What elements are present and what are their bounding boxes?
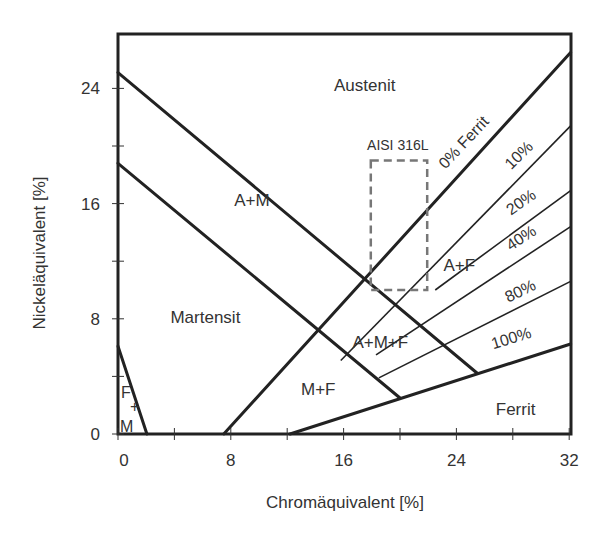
aisi-316l-box: [371, 160, 427, 290]
schaeffler-diagram: 08162432081624AISI 316LAustenitA+MMarten…: [0, 0, 608, 548]
region-label-m-f: M+F: [301, 380, 335, 399]
region-label-fm: M: [120, 418, 133, 435]
x-tick-label: 24: [447, 451, 466, 470]
y-axis-label: Nickeläquivalent [%]: [30, 176, 49, 329]
ferrite-label: 40%: [503, 222, 539, 254]
aisi-316l-label: AISI 316L: [367, 137, 429, 153]
y-tick-label: 0: [91, 425, 100, 444]
x-tick-label: 0: [119, 451, 128, 470]
region-label-austenit: Austenit: [334, 76, 396, 95]
region-label-ferrit: Ferrit: [496, 400, 536, 419]
ferrite-label: 100%: [489, 324, 533, 352]
y-tick-label: 24: [81, 79, 100, 98]
y-tick-label: 8: [91, 310, 100, 329]
x-tick-label: 16: [334, 451, 353, 470]
region-label-a-m: A+M: [234, 191, 269, 210]
austenite-martensite-upper-line: [118, 73, 478, 374]
region-label-a-f: A+F: [443, 256, 475, 275]
ferrite-label: 0% Ferrit: [435, 112, 492, 171]
ferrite-label: 20%: [503, 186, 539, 218]
y-tick-label: 16: [81, 195, 100, 214]
x-axis-label: Chromäquivalent [%]: [266, 493, 424, 512]
ferrite-line-80: [379, 281, 571, 377]
region-label-martensit: Martensit: [170, 308, 240, 327]
x-tick-label: 32: [560, 451, 579, 470]
diagram-labels: 08162432081624AISI 316LAustenitA+MMarten…: [81, 76, 579, 470]
region-label-fm: +: [130, 398, 139, 415]
x-tick-label: 8: [226, 451, 235, 470]
region-label-a-m-f: A+M+F: [352, 333, 408, 352]
